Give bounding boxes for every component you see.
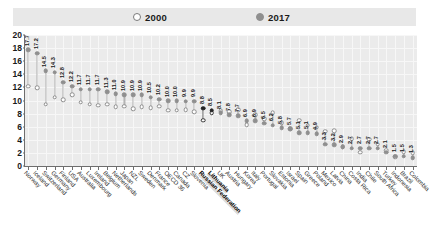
hollow-circle-icon[interactable] xyxy=(166,108,171,113)
filled-circle-icon[interactable] xyxy=(297,130,302,135)
hollow-circle-icon[interactable] xyxy=(131,107,136,112)
hollow-circle-icon[interactable] xyxy=(175,108,180,113)
hollow-circle-icon[interactable] xyxy=(87,102,92,107)
legend-label-2000: 2000 xyxy=(145,12,167,23)
filled-circle-icon[interactable] xyxy=(131,92,136,97)
filled-circle-icon[interactable] xyxy=(35,51,40,56)
filled-circle-icon[interactable] xyxy=(157,97,162,102)
data-value-label: 11.7 xyxy=(94,75,100,86)
filled-circle-icon[interactable] xyxy=(349,146,354,151)
filled-circle-icon[interactable] xyxy=(375,146,380,151)
hollow-circle-icon[interactable] xyxy=(244,122,249,127)
filled-circle-icon[interactable] xyxy=(87,87,92,92)
gridline-vertical xyxy=(299,35,300,166)
data-value-label: 11.0 xyxy=(111,79,117,90)
gridline-vertical xyxy=(308,35,309,166)
filled-circle-icon[interactable] xyxy=(279,126,284,131)
hollow-circle-icon[interactable] xyxy=(201,118,206,123)
legend-item-2017[interactable]: 2017 xyxy=(256,8,290,26)
data-value-label: 10.0 xyxy=(164,86,170,97)
filled-circle-icon[interactable] xyxy=(26,48,31,53)
filled-circle-icon[interactable] xyxy=(175,98,180,103)
hollow-circle-icon[interactable] xyxy=(157,104,162,109)
hollow-circle-icon[interactable] xyxy=(44,102,49,107)
hollow-circle-icon[interactable] xyxy=(113,105,118,110)
filled-circle-icon[interactable] xyxy=(113,92,118,97)
filled-circle-icon[interactable] xyxy=(122,92,127,97)
filled-circle-icon[interactable] xyxy=(367,146,372,151)
filled-circle-icon[interactable] xyxy=(218,111,223,116)
hollow-circle-icon[interactable] xyxy=(192,109,197,114)
hollow-circle-icon[interactable] xyxy=(148,105,153,110)
data-value-label: 2.7 xyxy=(356,137,362,145)
data-value-label: 2.1 xyxy=(382,140,388,148)
gridline-vertical xyxy=(273,35,274,166)
filled-circle-icon[interactable] xyxy=(393,154,398,159)
filled-circle-icon[interactable] xyxy=(410,155,415,160)
filled-circle-icon[interactable] xyxy=(78,87,83,92)
y-axis-tick-mark xyxy=(23,152,26,153)
data-value-label: 7.7 xyxy=(234,104,240,112)
data-value-label: 1.3 xyxy=(408,146,414,154)
filled-circle-icon[interactable] xyxy=(288,126,293,131)
filled-circle-icon[interactable] xyxy=(384,150,389,155)
filled-circle-icon[interactable] xyxy=(323,142,328,147)
data-value-label: 9.9 xyxy=(181,89,187,97)
hollow-circle-icon[interactable] xyxy=(35,86,40,91)
data-value-label: 12.8 xyxy=(59,67,65,78)
filled-circle-icon[interactable] xyxy=(105,90,110,95)
filled-circle-icon[interactable] xyxy=(306,130,311,135)
filled-circle-icon[interactable] xyxy=(271,123,276,128)
filled-circle-icon[interactable] xyxy=(236,113,241,118)
hollow-circle-icon[interactable] xyxy=(26,84,31,89)
filled-circle-icon[interactable] xyxy=(70,84,75,89)
hollow-circle-icon[interactable] xyxy=(52,95,57,100)
filled-circle-icon[interactable] xyxy=(402,154,407,159)
data-value-label: 11.7 xyxy=(85,75,91,86)
filled-circle-icon[interactable] xyxy=(166,98,171,103)
filled-circle-icon[interactable] xyxy=(61,80,66,85)
hollow-circle-icon xyxy=(133,13,141,21)
filled-circle-icon[interactable] xyxy=(358,146,363,151)
filled-circle-icon[interactable] xyxy=(44,69,49,74)
hollow-circle-icon[interactable] xyxy=(140,105,145,110)
data-value-label: 10.5 xyxy=(146,82,152,93)
filled-circle-icon[interactable] xyxy=(148,95,153,100)
connector-line xyxy=(28,50,29,86)
gridline-vertical xyxy=(238,35,239,166)
data-value-label: 6.9 xyxy=(251,109,257,117)
filled-circle-icon[interactable] xyxy=(332,143,337,148)
filled-circle-icon[interactable] xyxy=(253,119,258,124)
filled-circle-icon[interactable] xyxy=(52,70,57,75)
data-value-label: 9.9 xyxy=(190,89,196,97)
filled-circle-icon[interactable] xyxy=(227,113,232,118)
category-labels: NorwayIcelandSwitzerlandGermanyFinlandUS… xyxy=(24,167,417,245)
hollow-circle-icon[interactable] xyxy=(61,98,66,103)
hollow-circle-icon[interactable] xyxy=(183,107,188,112)
filled-circle-icon[interactable] xyxy=(183,99,188,104)
data-value-label: 14.3 xyxy=(50,57,56,68)
gridline-vertical xyxy=(264,35,265,166)
data-value-label: 7.8 xyxy=(225,103,231,111)
connector-line xyxy=(45,71,46,104)
y-axis-tick-mark xyxy=(23,139,26,140)
filled-circle-icon[interactable] xyxy=(340,145,345,150)
hollow-circle-icon[interactable] xyxy=(70,92,75,97)
hollow-circle-icon[interactable] xyxy=(358,150,363,155)
filled-circle-icon[interactable] xyxy=(192,99,197,104)
hollow-circle-icon[interactable] xyxy=(105,102,110,107)
data-value-label: 5.8 xyxy=(277,116,283,124)
hollow-circle-icon[interactable] xyxy=(78,100,83,105)
filled-circle-icon[interactable] xyxy=(262,121,267,126)
hollow-circle-icon[interactable] xyxy=(122,104,127,109)
legend-item-2000[interactable]: 2000 xyxy=(133,8,167,26)
data-value-label: 3.3 xyxy=(321,133,327,141)
filled-circle-icon[interactable] xyxy=(244,119,249,124)
hollow-circle-icon[interactable] xyxy=(96,103,101,108)
filled-circle-icon[interactable] xyxy=(209,108,214,113)
filled-circle-icon[interactable] xyxy=(314,132,319,137)
filled-circle-icon[interactable] xyxy=(96,87,101,92)
filled-circle-icon[interactable] xyxy=(140,92,145,97)
filled-circle-icon[interactable] xyxy=(201,106,206,111)
y-axis-tick-mark xyxy=(23,113,26,114)
